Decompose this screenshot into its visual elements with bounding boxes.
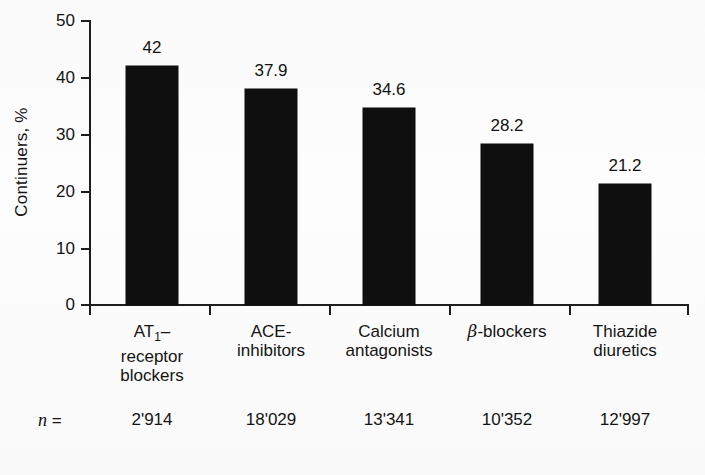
x-axis-tick-1 [209,306,211,315]
category-line-1: ACE- [251,322,292,341]
y-axis-tick-40 [81,77,89,79]
category-line-3: blockers [120,366,183,385]
x-axis-category-label-2: Calcium antagonists [337,322,441,360]
bar-beta-blockers [481,144,533,305]
greek-beta: β [468,321,478,341]
sample-size-value-0: 2'914 [112,410,192,430]
x-axis-category-label-3: β-blockers [455,322,559,341]
y-axis-tick-label-50: 50 [29,11,75,31]
y-axis-tick-label-40: 40 [29,68,75,88]
x-axis-category-label-1: ACE- inhibitors [226,322,316,360]
category-line-1: β-blockers [468,322,547,341]
bar-calcium-antagonists [363,108,415,305]
bar-value-label: 42 [112,38,192,58]
category-line-2: antagonists [346,341,433,360]
sample-size-value-2: 13'341 [349,410,429,430]
x-axis-category-label-0: AT1– receptor blockers [112,322,192,385]
y-axis-tick-10 [81,248,89,250]
sample-size-value-3: 10'352 [467,410,547,430]
subscript-1: 1 [154,330,161,344]
x-axis-tick-0 [89,306,91,315]
bar-value-label: 37.9 [231,61,311,81]
y-axis-tick-20 [81,191,89,193]
x-axis-category-label-4: Thiazide diuretics [573,322,677,360]
y-axis-tick-label-20: 20 [29,182,75,202]
category-line-2: receptor [121,347,183,366]
bar-value-label: 28.2 [467,116,547,136]
bar-ace-inhibitors [245,89,297,305]
y-axis-tick-label-0: 0 [29,295,75,315]
bar-thiazide-diuretics [599,184,651,305]
category-line-1: Calcium [358,322,419,341]
bar-value-label: 34.6 [349,80,429,100]
y-axis-title: Continuers, % [12,12,38,312]
category-line-1: Thiazide [593,322,657,341]
y-axis-tick-label-10: 10 [29,239,75,259]
category-line-2: diuretics [593,341,656,360]
n-symbol: n [38,410,47,430]
sample-size-row-label: n = [38,410,62,431]
y-axis-tick-label-30: 30 [29,125,75,145]
x-axis-tick-2 [329,306,331,315]
bar-value-label: 21.2 [585,156,665,176]
y-axis-tick-0 [81,304,89,306]
x-axis-tick-3 [449,306,451,315]
y-axis-line [89,20,91,306]
category-line-1: AT1– [134,322,171,341]
y-axis-tick-50 [81,20,89,22]
equals-sign: = [52,411,62,430]
sample-size-value-4: 12'997 [585,410,665,430]
x-axis-tick-5 [687,306,689,315]
category-line-2: inhibitors [237,341,305,360]
bar-chart-figure: Continuers, % 50 40 30 20 10 0 42 AT1– r… [0,0,705,475]
y-axis-tick-30 [81,134,89,136]
bar-at1-receptor-blockers [126,66,178,305]
x-axis-tick-4 [569,306,571,315]
sample-size-value-1: 18'029 [231,410,311,430]
